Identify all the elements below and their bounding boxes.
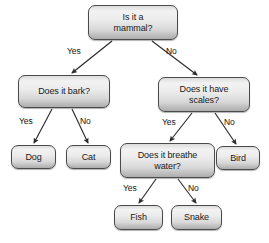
edge-label-mammal-yes: Yes — [67, 47, 81, 56]
node-fish[interactable]: Fish — [114, 205, 163, 230]
node-bird[interactable]: Bird — [216, 146, 260, 170]
edge-label-water-yes: Yes — [123, 184, 137, 193]
node-label: Does it breathe water? — [135, 150, 201, 171]
edge-bark-yes — [34, 109, 52, 143]
edge-label-bark-yes: Yes — [19, 117, 33, 126]
node-cat[interactable]: Cat — [66, 145, 111, 169]
edge-bark-no — [72, 109, 88, 143]
node-snake[interactable]: Snake — [171, 205, 222, 230]
node-has-scales[interactable]: Does it have scales? — [158, 77, 250, 112]
node-label: Does it bark? — [35, 86, 93, 97]
node-label: Fish — [127, 212, 150, 223]
edge-label-mammal-no: No — [166, 47, 177, 56]
decision-tree-diagram: Is it a mammal? Does it bark? Does it ha… — [0, 0, 269, 243]
edge-label-scales-no: No — [224, 118, 235, 127]
node-label: Snake — [181, 212, 212, 223]
node-label: Cat — [79, 152, 99, 163]
edge-water-yes — [139, 179, 156, 203]
node-does-bark[interactable]: Does it bark? — [18, 75, 110, 108]
node-dog[interactable]: Dog — [11, 145, 56, 169]
node-label: Dog — [22, 152, 44, 163]
edge-label-water-no: No — [188, 184, 199, 193]
node-label: Is it a mammal? — [111, 12, 156, 33]
node-label: Bird — [227, 153, 249, 164]
node-breathe-water[interactable]: Does it breathe water? — [120, 143, 215, 178]
node-is-mammal[interactable]: Is it a mammal? — [88, 5, 178, 40]
edge-label-bark-no: No — [80, 117, 91, 126]
node-label: Does it have scales? — [177, 84, 232, 105]
edge-label-scales-yes: Yes — [162, 118, 176, 127]
